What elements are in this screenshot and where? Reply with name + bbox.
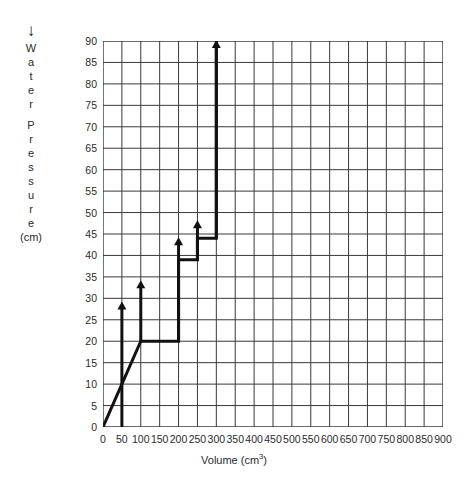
chart-figure: ↓ W a t e r P r e s s u r e (cm) 0510152… <box>0 0 468 480</box>
y-axis-label-char: e <box>8 216 54 230</box>
y-tick-label: 60 <box>71 165 97 176</box>
y-axis-label-char: t <box>8 69 54 83</box>
arrow-at-250-head <box>193 220 202 228</box>
y-tick-label: 45 <box>71 229 97 240</box>
x-axis-label: Volume (cm3) <box>0 452 468 466</box>
plot-area <box>103 41 443 427</box>
x-tick-label: 900 <box>430 434 456 445</box>
y-tick-label: 25 <box>71 315 97 326</box>
y-tick-label: 0 <box>71 422 97 433</box>
y-axis-label-char: a <box>8 55 54 69</box>
y-tick-label: 15 <box>71 358 97 369</box>
y-axis-label-char: s <box>8 160 54 174</box>
y-tick-label: 80 <box>71 79 97 90</box>
down-arrow-icon: ↓ <box>8 22 54 39</box>
y-tick-label: 70 <box>71 122 97 133</box>
y-tick-label: 85 <box>71 57 97 68</box>
y-axis-label-char: e <box>8 146 54 160</box>
y-tick-label: 30 <box>71 293 97 304</box>
y-tick-label: 50 <box>71 208 97 219</box>
y-tick-label: 10 <box>71 379 97 390</box>
y-tick-label: 40 <box>71 250 97 261</box>
x-axis-label-text: Volume (cm <box>201 454 259 466</box>
arrow-at-200-head <box>174 237 183 245</box>
y-axis-label-spacer <box>8 111 54 118</box>
y-tick-label: 75 <box>71 100 97 111</box>
y-axis-label-char: r <box>8 97 54 111</box>
y-axis-label-char: P <box>8 118 54 132</box>
y-tick-label: 90 <box>71 36 97 47</box>
y-axis-label-char: e <box>8 83 54 97</box>
plot-svg <box>103 41 443 427</box>
y-axis-label-char: r <box>8 202 54 216</box>
y-axis-units: (cm) <box>8 230 54 244</box>
grid-lines <box>103 41 443 427</box>
y-axis-label-char: W <box>8 41 54 55</box>
y-tick-label: 35 <box>71 272 97 283</box>
y-axis-label-char: r <box>8 132 54 146</box>
arrow-at-300-head <box>212 41 221 48</box>
y-tick-label: 5 <box>71 401 97 412</box>
y-tick-label: 65 <box>71 143 97 154</box>
y-axis-label: ↓ W a t e r P r e s s u r e (cm) <box>8 22 54 244</box>
x-axis-label-tail: ) <box>263 454 267 466</box>
y-axis-label-char: s <box>8 174 54 188</box>
y-tick-label: 55 <box>71 186 97 197</box>
y-tick-label: 20 <box>71 336 97 347</box>
arrow-at-50-head <box>117 302 126 310</box>
y-axis-label-char: u <box>8 188 54 202</box>
arrow-at-100-head <box>136 280 145 288</box>
